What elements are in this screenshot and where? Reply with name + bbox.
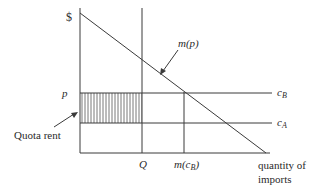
m-p-arrow xyxy=(163,50,178,71)
m-cb-label: m(cB) xyxy=(174,159,199,172)
quota-rent-area xyxy=(80,93,142,123)
import-demand-curve xyxy=(80,13,266,153)
cb-label-sub: B xyxy=(282,91,287,100)
y-axis-label: $ xyxy=(66,11,72,23)
quota-label: Q xyxy=(139,159,147,170)
price-label: p xyxy=(62,88,68,99)
ca-label-sub: A xyxy=(282,121,287,130)
x-axis-label-line2: imports xyxy=(258,174,292,185)
m-cb-label-end: ) xyxy=(195,158,199,170)
m-cb-label-main: m(c xyxy=(174,158,191,170)
cb-label: cB xyxy=(277,87,287,100)
x-axis-label-line1: quantity of xyxy=(258,160,306,171)
m-p-arrowhead xyxy=(160,68,166,75)
import-demand-label: m(p) xyxy=(178,38,199,49)
quota-rent-label: Quota rent xyxy=(14,130,61,141)
ca-label: cA xyxy=(277,117,287,130)
quota-rent-arrow xyxy=(54,114,74,127)
quota-rent-diagram: $ p Quota rent m(p) Q m(cB) cB cA quanti… xyxy=(0,0,318,190)
